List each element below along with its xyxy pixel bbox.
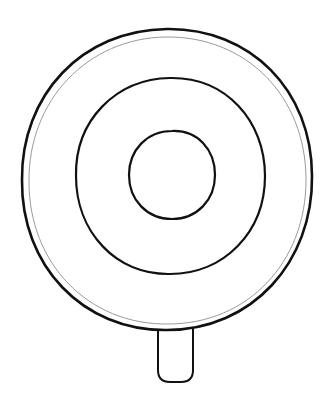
outer-circle: [22, 29, 312, 330]
lollipop-illustration: [0, 0, 331, 408]
lollipop-stick: [158, 328, 193, 382]
